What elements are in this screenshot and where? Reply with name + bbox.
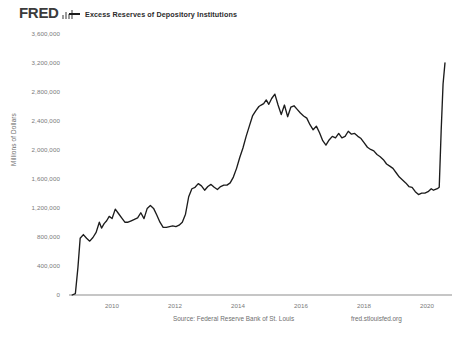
series-line-excess-reserves [72,63,445,295]
chart-legend: Excess Reserves of Depository Institutio… [69,8,237,20]
fred-logo[interactable]: FRED [19,5,74,20]
chart-canvas [0,26,473,311]
plot-area: Millions of Dollars 3,600,000 3,200,000 … [0,26,473,311]
fred-chart-page: FRED Excess Reserves of Depository Insti… [0,0,473,341]
chart-footer: Source: Federal Reserve Bank of St. Loui… [0,315,473,331]
footer-source-text: Source: Federal Reserve Bank of St. Loui… [173,315,294,322]
fred-wordmark: FRED [19,5,59,20]
legend-line-swatch [69,13,80,15]
chart-header: FRED Excess Reserves of Depository Insti… [0,0,473,26]
legend-series-label: Excess Reserves of Depository Institutio… [85,10,237,19]
footer-url-link[interactable]: fred.stlouisfed.org [351,315,402,322]
